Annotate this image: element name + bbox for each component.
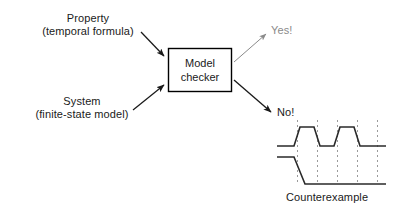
counterexample-caption: Counterexample bbox=[286, 191, 368, 204]
input-label-property-line1: Property bbox=[18, 12, 158, 25]
model-checker-box-label-line1: Model bbox=[185, 56, 215, 70]
waveform-signal-top bbox=[277, 127, 386, 146]
model-checker-box-label: Model checker bbox=[168, 48, 232, 92]
arrow-checker-to-no bbox=[234, 80, 271, 112]
input-label-system: System (finite-state model) bbox=[12, 95, 152, 121]
input-label-system-line2: (finite-state model) bbox=[12, 108, 152, 121]
input-label-system-line1: System bbox=[12, 95, 152, 108]
output-label-no: No! bbox=[277, 106, 294, 119]
input-label-property-line2: (temporal formula) bbox=[18, 25, 158, 38]
input-label-property: Property (temporal formula) bbox=[18, 12, 158, 38]
model-checker-box-label-line2: checker bbox=[181, 70, 220, 84]
waveform-signal-bottom bbox=[277, 157, 386, 184]
output-label-yes: Yes! bbox=[271, 24, 292, 37]
waveform-gridlines bbox=[298, 120, 378, 185]
model-checking-diagram: Property (temporal formula) System (fini… bbox=[0, 0, 398, 213]
arrow-checker-to-yes bbox=[234, 34, 266, 62]
